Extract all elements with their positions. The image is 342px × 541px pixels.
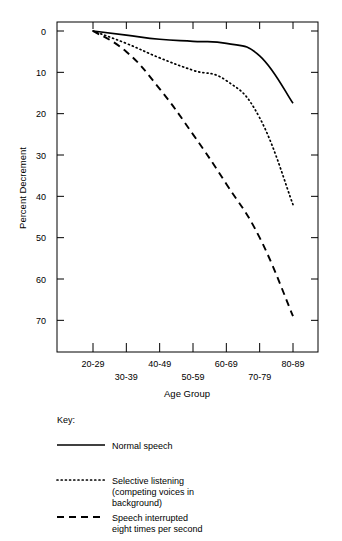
y-tick-label: 40 [36, 192, 46, 202]
x-axis-tick-labels: 20-2930-3940-4950-5960-6970-7980-89 [81, 359, 304, 382]
y-tick-label: 50 [36, 233, 46, 243]
y-tick-label: 0 [41, 27, 46, 37]
x-tick-label: 40-49 [148, 359, 171, 369]
x-tick-label: 70-79 [248, 372, 271, 382]
y-axis-title: Percent Decrement [17, 147, 28, 229]
x-tick-label: 20-29 [81, 359, 104, 369]
y-tick-label: 30 [36, 151, 46, 161]
x-tick-label: 80-89 [281, 359, 304, 369]
legend-label-0: Normal speech [112, 441, 173, 451]
x-axis-ticks-top [93, 22, 293, 29]
series-layer [93, 31, 293, 316]
legend: Normal speechSelective listening(competi… [57, 441, 203, 534]
y-tick-label: 60 [36, 275, 46, 285]
legend-label-1: (competing voices in [112, 487, 194, 497]
x-tick-label: 50-59 [181, 372, 204, 382]
legend-label-2: Speech interrupted [112, 513, 188, 523]
y-tick-label: 10 [36, 68, 46, 78]
chart-page: 010203040506070 20-2930-3940-4950-5960-6… [0, 0, 342, 541]
x-tick-label: 30-39 [115, 372, 138, 382]
percent-decrement-line-chart: 010203040506070 20-2930-3940-4950-5960-6… [0, 0, 342, 541]
legend-title: Key: [57, 415, 75, 425]
x-axis-title: Age Group [164, 388, 210, 399]
series-line-0 [93, 31, 293, 103]
series-line-2 [93, 31, 293, 316]
y-axis-tick-labels: 010203040506070 [36, 27, 46, 326]
legend-label-2: eight times per second [112, 524, 203, 534]
y-tick-label: 20 [36, 109, 46, 119]
x-tick-label: 60-69 [215, 359, 238, 369]
plot-frame [57, 22, 318, 352]
legend-label-1: background) [112, 498, 162, 508]
y-axis-ticks [57, 31, 64, 320]
series-line-1 [93, 31, 293, 205]
legend-label-1: Selective listening [112, 476, 184, 486]
y-tick-label: 70 [36, 316, 46, 326]
y-axis-ticks-right [311, 31, 318, 320]
x-axis-ticks [93, 343, 293, 352]
